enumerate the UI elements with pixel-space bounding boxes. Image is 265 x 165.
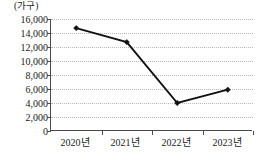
series-line <box>76 28 228 103</box>
y-axis-tick-label: 2,000 <box>2 113 48 123</box>
plot-area <box>50 19 252 131</box>
y-axis-tick-label: 6,000 <box>2 85 48 95</box>
y-axis-tick-label: 12,000 <box>2 43 48 53</box>
y-axis-tick-label: 8,000 <box>2 71 48 81</box>
line-chart: (가구) 16,000 14,000 12,000 10,000 8,000 6… <box>0 0 265 165</box>
y-axis-tick-label: 14,000 <box>2 29 48 39</box>
x-axis-tick <box>253 131 254 135</box>
data-point-marker <box>74 25 79 30</box>
y-axis-unit-label: (가구) <box>14 1 38 12</box>
y-axis-tick-label: 0 <box>2 127 48 137</box>
data-series-layer <box>51 19 253 131</box>
y-axis-tick <box>47 131 51 132</box>
y-axis-tick-label: 16,000 <box>2 15 48 25</box>
y-axis-tick-label: 10,000 <box>2 57 48 67</box>
x-axis-tick <box>102 131 103 135</box>
data-point-marker <box>225 87 230 92</box>
series-markers <box>74 25 231 105</box>
y-axis-tick-label: 4,000 <box>2 99 48 109</box>
x-axis-tick-label: 2023년 <box>196 137 258 148</box>
x-axis-tick <box>152 131 153 135</box>
x-axis-tick <box>203 131 204 135</box>
